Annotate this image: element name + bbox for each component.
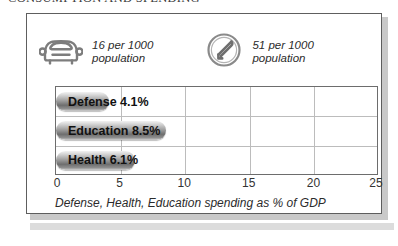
car-icon [39,33,83,71]
bar-row-health: Health 6.1% [56,146,135,175]
x-tick-25: 25 [369,176,382,190]
stat-telephones: 51 per 1000 population [205,25,313,79]
bar-education: Education 8.5% [56,121,166,140]
chart-caption: Defense, Health, Education spending as %… [55,196,326,210]
bar-health: Health 6.1% [56,151,135,170]
stats-row: 16 per 1000 population 51 per 1000 popul… [27,25,381,79]
x-tick-5: 5 [116,176,123,190]
gridline-x-10 [185,87,186,174]
spending-bar-chart: Defense 4.1% Education 8.5% Health 6.1% … [27,84,383,212]
infographic-card: 16 per 1000 population 51 per 1000 popul… [26,13,382,214]
stat-telephones-label: 51 per 1000 population [252,39,313,65]
stat-cars: 16 per 1000 population [39,25,153,79]
page-title: CONSUMPTION AND SPENDING [8,0,200,4]
x-tick-0: 0 [54,176,61,190]
stat-cars-label: 16 per 1000 population [92,39,153,65]
bar-label-health: Health 6.1% [68,153,138,167]
x-tick-15: 15 [242,176,255,190]
gridline-x-20 [314,87,315,174]
bar-row-education: Education 8.5% [56,116,166,145]
x-tick-10: 10 [178,176,191,190]
bar-row-defense: Defense 4.1% [56,87,109,116]
bar-label-defense: Defense 4.1% [68,95,149,109]
chart-x-axis: 0 5 10 15 20 25 [55,175,378,195]
x-tick-20: 20 [307,176,320,190]
page-bottom-band [30,223,394,230]
telephone-icon [205,31,243,73]
gridline-x-15 [250,87,251,174]
bar-defense: Defense 4.1% [56,92,109,111]
bar-label-education: Education 8.5% [68,124,160,138]
chart-plot-area: Defense 4.1% Education 8.5% Health 6.1% [55,86,378,175]
